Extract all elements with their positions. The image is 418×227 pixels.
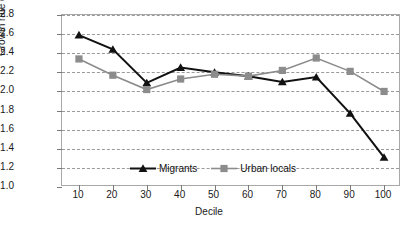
y-axis-tick-label: 2.0 [0,85,14,95]
x-axis-tick-label: 20 [95,190,129,200]
y-axis-tick-label: 1.0 [0,181,14,191]
x-axis-tick-label: 30 [129,190,163,200]
series-urban-locals [75,54,387,95]
x-axis-tick-label: 60 [230,190,264,200]
data-point [109,72,116,79]
legend-label: Urban locals [240,163,296,174]
y-axis-tick-label: 2.2 [0,66,14,76]
x-axis-tick-label: 50 [197,190,231,200]
y-axis-tick-label: 2.8 [0,9,14,19]
series-layer [62,15,401,187]
y-axis-tick-label: 2.6 [0,28,14,38]
data-point [143,86,150,93]
data-point [380,88,387,95]
x-axis-tick-label: 100 [366,190,400,200]
data-point [245,73,252,80]
data-point [75,31,84,39]
x-axis-tick-label: 10 [61,190,95,200]
legend-label: Migrants [159,163,197,174]
data-point [211,71,218,78]
data-point [313,54,320,61]
y-axis-tick [57,187,62,188]
x-axis-tick-label: 80 [298,190,332,200]
wage-growth-line-chart: Growth rate of wages (%) 1.01.21.41.61.8… [0,0,418,227]
legend-entry-migrants: Migrants [130,163,197,174]
y-axis-tick-label: 1.8 [0,105,14,115]
x-axis-tick-label: 40 [163,190,197,200]
data-point [177,75,184,82]
data-point [347,68,354,75]
y-axis-tick-label: 1.4 [0,143,14,153]
x-axis-tick-label: 70 [264,190,298,200]
y-axis-tick-label: 1.2 [0,162,14,172]
triangle-marker-icon [130,163,156,174]
square-marker-icon [211,163,237,174]
chart-legend: MigrantsUrban locals [130,163,296,174]
legend-entry-urban-locals: Urban locals [211,163,296,174]
y-axis-tick-label: 1.6 [0,124,14,134]
x-axis-title: Decile [0,206,418,217]
plot-area: MigrantsUrban locals [61,14,400,186]
series-line [79,35,384,157]
series-line [79,58,384,91]
series-migrants [75,31,389,161]
x-axis-tick-label: 90 [332,190,366,200]
data-point [75,55,82,62]
data-point [279,67,286,74]
y-axis-tick-label: 2.4 [0,47,14,57]
